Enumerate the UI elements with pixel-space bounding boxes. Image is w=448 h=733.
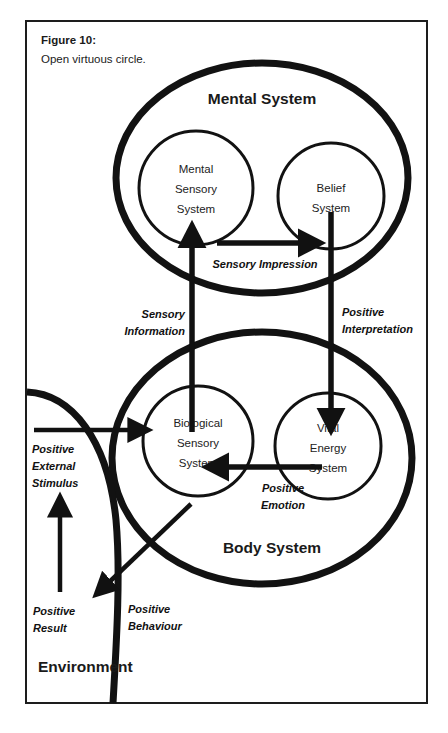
biological-sensory-system-label-line2: Sensory (177, 437, 219, 449)
positive-interpretation-label-line2: Interpretation (342, 323, 413, 335)
mental-system-title: Mental System (208, 90, 317, 107)
sensory-information-label-line1: Sensory (142, 308, 186, 320)
positive-external-stimulus-label-line1: Positive (32, 443, 74, 455)
biological-sensory-system-label-line1: Biological (173, 417, 222, 429)
positive-emotion-label-line2: Emotion (261, 499, 305, 511)
positive-external-stimulus-label-line2: External (32, 460, 76, 472)
biological-sensory-system-label-line3: System (179, 457, 217, 469)
sensory-impression-label: Sensory Impression (212, 258, 317, 270)
sensory-information-label-line2: Information (125, 325, 186, 337)
figure-frame (26, 21, 427, 703)
positive-result-label-line2: Result (33, 622, 68, 634)
positive-emotion-label-line1: Positive (262, 482, 304, 494)
mental-sensory-system-label-line1: Mental (179, 163, 214, 175)
body-system-title: Body System (223, 539, 321, 556)
vital-energy-system-label-line2: Energy (310, 442, 347, 454)
positive-behaviour-label-line2: Behaviour (128, 620, 183, 632)
positive-result-label-line1: Positive (33, 605, 75, 617)
figure-container: Figure 10: Open virtuous circle. Mental … (0, 0, 448, 733)
positive-interpretation-label-line1: Positive (342, 306, 384, 318)
positive-external-stimulus-label-line3: Stimulus (32, 477, 78, 489)
figure-caption-title: Figure 10: (41, 34, 96, 46)
environment-title: Environment (38, 658, 133, 675)
open-virtuous-circle-diagram: Figure 10: Open virtuous circle. Mental … (0, 0, 448, 733)
belief-system-label-line1: Belief (317, 182, 347, 194)
figure-caption-subtitle: Open virtuous circle. (41, 53, 146, 65)
mental-sensory-system-label-line3: System (177, 203, 215, 215)
positive-behaviour-label-line1: Positive (128, 603, 170, 615)
vital-energy-system-label-line1: Vital (317, 422, 339, 434)
mental-sensory-system-label-line2: Sensory (175, 183, 217, 195)
